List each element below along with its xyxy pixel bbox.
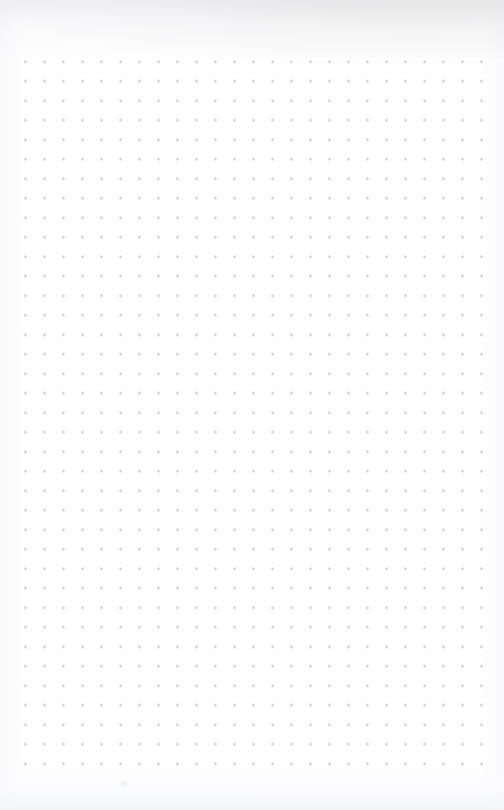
paper-background (0, 0, 504, 810)
dot-grid-page (0, 0, 504, 810)
